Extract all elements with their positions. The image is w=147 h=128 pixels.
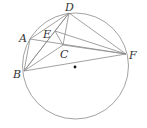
geometry-diagram: ABCDEF — [0, 0, 147, 128]
segment-BC — [24, 45, 63, 71]
center-dot — [74, 66, 77, 69]
segment-BF — [24, 54, 126, 71]
segment-CF — [63, 45, 126, 54]
segment-ED — [55, 13, 69, 31]
label-C: C — [60, 48, 69, 61]
label-B: B — [12, 68, 21, 81]
label-E: E — [42, 28, 51, 41]
label-F: F — [128, 49, 137, 62]
label-D: D — [64, 1, 74, 14]
segment-DC — [63, 13, 69, 45]
label-A: A — [18, 32, 27, 45]
segments — [24, 13, 126, 71]
